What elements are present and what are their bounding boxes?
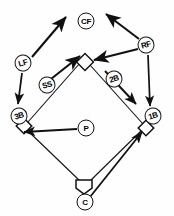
arrow-lf-to-third-base: [18, 73, 22, 104]
arrow-rf-to-deep-right-center: [106, 14, 139, 39]
movement-arrows: [18, 14, 150, 197]
arrow-lf-to-deep-left-center: [32, 17, 66, 57]
baseline-first-to-home: [89, 131, 141, 182]
arrow-rf-to-second-base: [94, 49, 138, 60]
player-label-c[interactable]: C: [77, 194, 94, 211]
home-plate-marker: [76, 180, 92, 194]
arrow-rf-to-first-base: [148, 55, 150, 106]
arrow-c-to-first-base: [90, 132, 142, 197]
baseball-field-diagram: CF LF RF SS 2B 3B 1B P C: [0, 0, 174, 216]
arrow-p-to-third-base: [24, 129, 77, 132]
player-label-cf[interactable]: CF: [78, 13, 95, 30]
baseline-third-to-second: [28, 63, 80, 122]
player-label-p[interactable]: P: [78, 120, 95, 137]
baseline-home-to-third: [27, 130, 80, 181]
